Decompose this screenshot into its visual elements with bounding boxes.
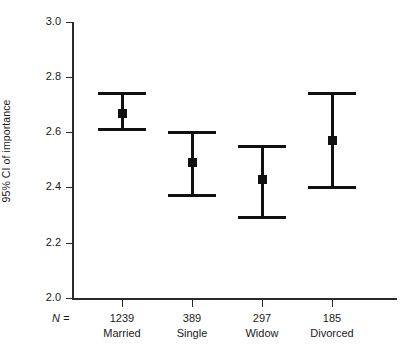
- y-tick-label-2-4: 2.4: [46, 179, 61, 194]
- x-category-name-divorced: Divorced: [287, 326, 377, 341]
- x-category-n-divorced: 185: [287, 311, 377, 326]
- n-equals-label: N =: [52, 311, 69, 326]
- y-tick-2-6: 2.6: [66, 132, 73, 133]
- y-tick-3-0: 3.0: [66, 22, 73, 23]
- x-tick-widow: [262, 300, 263, 307]
- errorbar-mean-marker: [188, 158, 197, 167]
- y-tick-label-2-6: 2.6: [46, 124, 61, 139]
- y-tick-label-3-0: 3.0: [46, 14, 61, 29]
- errorbar-mean-marker: [328, 136, 337, 145]
- y-tick-2-8: 2.8: [66, 77, 73, 78]
- errorbar-cap-lower: [98, 128, 146, 131]
- confidence-interval-chart: 95% CI of importance 3.0 2.8 2.6 2.4 2.2…: [0, 0, 405, 354]
- y-tick-2-0: 2.0: [66, 298, 73, 299]
- x-category-divorced: 185 Divorced: [287, 311, 377, 341]
- y-tick-label-2-8: 2.8: [46, 69, 61, 84]
- y-tick-2-2: 2.2: [66, 243, 73, 244]
- y-tick-label-2-2: 2.2: [46, 235, 61, 250]
- errorbar-cap-lower: [238, 216, 286, 219]
- errorbar-mean-marker: [258, 175, 267, 184]
- y-tick-2-4: 2.4: [66, 187, 73, 188]
- x-tick-single: [192, 300, 193, 307]
- errorbar-cap-lower: [308, 186, 356, 189]
- y-axis-title: 95% CI of importance: [0, 12, 16, 290]
- errorbar-mean-marker: [118, 109, 127, 118]
- errorbar-cap-lower: [168, 194, 216, 197]
- x-tick-divorced: [332, 300, 333, 307]
- y-axis-line: [72, 22, 74, 300]
- y-tick-label-2-0: 2.0: [46, 290, 61, 305]
- x-axis-line: [72, 298, 397, 300]
- x-tick-married: [122, 300, 123, 307]
